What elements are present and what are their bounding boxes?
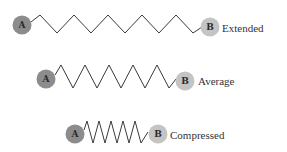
ball-a-label: A <box>18 20 27 30</box>
spring-coil-icon <box>55 65 176 88</box>
ball-b-label: B <box>154 129 162 139</box>
ball-b-label: B <box>181 76 189 86</box>
ball-a-label: A <box>71 129 80 139</box>
spring-coil-icon <box>84 121 148 143</box>
ball-b-label: B <box>206 22 214 32</box>
spring-states-diagram: A B Extended A B Average A B Compressed <box>0 0 287 152</box>
spring-extended: A B Extended <box>13 15 265 37</box>
spring-coil-icon <box>31 15 202 33</box>
state-label-average: Average <box>198 75 235 87</box>
state-label-compressed: Compressed <box>170 129 225 141</box>
spring-average: A B Average <box>37 65 235 91</box>
state-label-extended: Extended <box>222 22 264 34</box>
spring-compressed: A B Compressed <box>66 121 225 144</box>
ball-a-label: A <box>42 74 51 84</box>
